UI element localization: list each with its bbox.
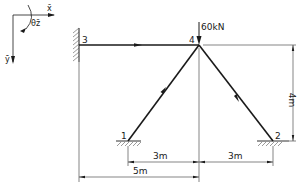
rotation-label: θz̄ [31, 19, 40, 28]
height-label: 4m [287, 93, 297, 108]
load-arrow-icon [197, 36, 202, 45]
member-3-4-direction-arrow-icon [134, 43, 142, 46]
dimension-left-span: 3m [128, 151, 199, 163]
dimension-height: 4m [287, 45, 297, 141]
support-node-2 [257, 141, 289, 146]
load-label: 60kN [201, 22, 224, 32]
node-label-4: 4 [189, 35, 195, 45]
dimension-right-span: 3m [199, 151, 273, 163]
x-axis-arrow-icon [48, 13, 55, 17]
frame-diagram: x̄ ȳ θz̄ [0, 0, 300, 196]
members [79, 43, 273, 141]
node-label-3: 3 [82, 35, 88, 45]
rotation-arrow-icon [20, 28, 26, 33]
left-span-label: 3m [153, 151, 168, 161]
support-node-1 [116, 141, 141, 146]
extension-lines [79, 45, 296, 182]
node-label-1: 1 [121, 131, 127, 141]
node-label-2: 2 [275, 131, 281, 141]
x-axis-label: x̄ [47, 4, 52, 13]
right-span-label: 3m [228, 151, 243, 161]
dimension-overall: 5m [79, 166, 199, 178]
y-axis-label: ȳ [5, 55, 10, 64]
member-2-4 [199, 45, 273, 141]
point-load: 60kN [197, 22, 225, 45]
y-axis-arrow-icon [11, 56, 15, 64]
overall-span-label: 5m [133, 166, 148, 176]
fixed-wall-support [73, 28, 79, 62]
coordinate-system: x̄ ȳ θz̄ [5, 4, 55, 64]
